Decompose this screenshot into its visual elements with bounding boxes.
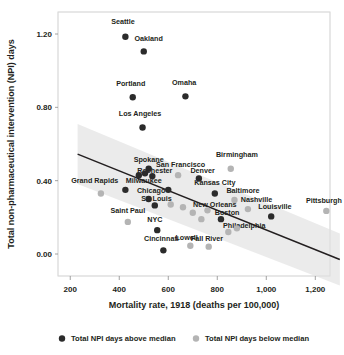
data-point[interactable] <box>187 243 193 249</box>
data-point[interactable] <box>218 216 224 222</box>
data-point[interactable] <box>160 247 166 253</box>
data-point[interactable] <box>175 172 181 178</box>
x-axis-tick-label: 800 <box>211 285 225 294</box>
scatter-plot: 0.000.400.801.202004006008001,0001,200Mo… <box>0 0 344 355</box>
data-point[interactable] <box>212 190 218 196</box>
data-point[interactable] <box>125 219 131 225</box>
data-point-label: Seattle <box>111 17 135 26</box>
x-axis-tick-label: 200 <box>64 285 78 294</box>
data-point-label: Portland <box>116 79 145 88</box>
y-axis-title: Total non-pharmaceutical intervention (N… <box>6 39 16 248</box>
data-point[interactable] <box>268 213 274 219</box>
data-point-label: Denver <box>190 166 215 175</box>
data-point-unlabeled[interactable] <box>225 229 231 235</box>
data-point[interactable] <box>141 48 147 54</box>
chart-root: 0.000.400.801.202004006008001,0001,200Mo… <box>0 0 344 355</box>
data-point-label: Philadelphia <box>223 221 266 230</box>
data-point[interactable] <box>154 227 160 233</box>
data-point[interactable] <box>122 187 128 193</box>
legend-marker <box>193 335 199 341</box>
data-point[interactable] <box>98 190 104 196</box>
data-point-label: Grand Rapids <box>71 176 118 185</box>
data-point-label: NYC <box>147 215 162 224</box>
data-point-label: Cincinnati <box>144 234 179 243</box>
data-point[interactable] <box>149 173 155 179</box>
legend-label: Total NPI days above median <box>71 334 176 343</box>
data-point[interactable] <box>196 175 202 181</box>
data-point[interactable] <box>228 166 234 172</box>
data-point-label: Louisville <box>258 202 291 211</box>
data-point-unlabeled[interactable] <box>136 172 142 178</box>
data-point[interactable] <box>231 197 237 203</box>
data-point-label: Baltimore <box>226 186 259 195</box>
data-point[interactable] <box>122 34 128 40</box>
x-axis-title: Mortality rate, 1918 (deaths per 100,000… <box>109 300 280 310</box>
data-point-label: Los Angeles <box>119 109 161 118</box>
data-point[interactable] <box>206 243 212 249</box>
y-axis-tick-label: 1.20 <box>36 30 52 39</box>
data-point-label: Omaha <box>172 78 197 87</box>
data-point-label: Birmingham <box>216 150 258 159</box>
data-point-label: Milwaukee <box>126 176 162 185</box>
data-point-unlabeled[interactable] <box>168 201 174 207</box>
data-point-unlabeled[interactable] <box>198 216 204 222</box>
data-point[interactable] <box>145 196 151 202</box>
data-point-unlabeled[interactable] <box>190 210 196 216</box>
data-point-unlabeled[interactable] <box>142 170 148 176</box>
legend-marker <box>59 335 65 341</box>
data-point-label: Saint Paul <box>110 206 145 215</box>
data-point-unlabeled[interactable] <box>165 187 171 193</box>
x-axis-tick-label: 1,000 <box>256 285 277 294</box>
data-point[interactable] <box>139 124 145 130</box>
y-axis-tick-label: 0.00 <box>36 250 52 259</box>
x-axis-tick-label: 600 <box>162 285 176 294</box>
data-point[interactable] <box>234 225 240 231</box>
data-point-label: Pittsburgh <box>306 196 342 205</box>
data-point[interactable] <box>182 93 188 99</box>
data-point[interactable] <box>130 94 136 100</box>
x-axis-tick-label: 1,200 <box>305 285 326 294</box>
data-point[interactable] <box>323 208 329 214</box>
data-point[interactable] <box>152 202 158 208</box>
legend-label: Total NPI days below median <box>205 334 309 343</box>
data-point-label: Fall River <box>191 234 224 243</box>
data-point[interactable] <box>204 207 210 213</box>
data-point-unlabeled[interactable] <box>180 204 186 210</box>
data-point[interactable] <box>245 206 251 212</box>
y-axis-tick-label: 0.80 <box>36 103 52 112</box>
x-axis-tick-label: 400 <box>113 285 127 294</box>
y-axis-tick-label: 0.40 <box>36 177 52 186</box>
data-point-label: Boston <box>215 208 240 217</box>
data-point-label: Oakland <box>134 34 162 43</box>
